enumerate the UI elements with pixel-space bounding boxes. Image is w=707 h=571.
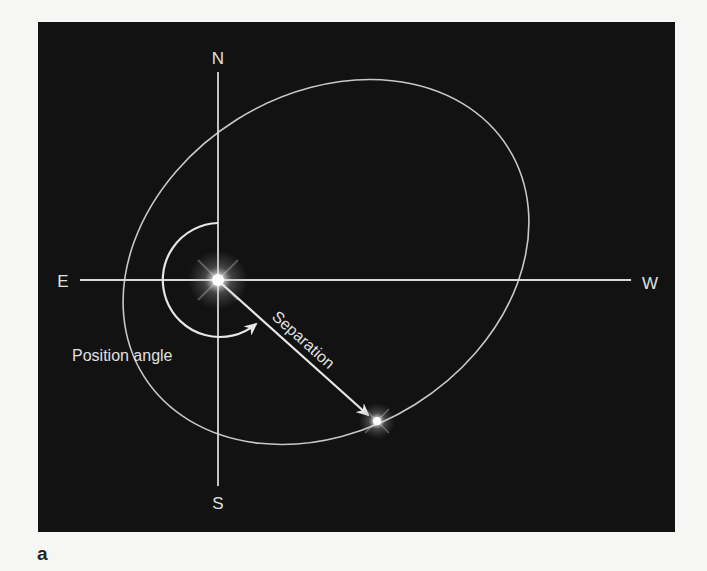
orbit-ellipse <box>55 6 598 519</box>
companion-star <box>359 403 395 439</box>
separation-arrow <box>222 284 368 415</box>
primary-star <box>188 250 248 310</box>
west-label: W <box>642 274 658 293</box>
panel-label: a <box>37 543 48 565</box>
north-label: N <box>212 49 224 68</box>
south-label: S <box>212 494 223 513</box>
east-label: E <box>57 272 68 291</box>
position-angle-label: Position angle <box>72 347 173 364</box>
separation-label: Separation <box>269 308 338 372</box>
orbit-diagram: N S E W Position angle Separation <box>0 0 707 571</box>
